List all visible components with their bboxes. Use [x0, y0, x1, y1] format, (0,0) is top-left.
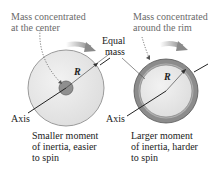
right-axis-end [194, 64, 208, 72]
right-caption-2: of inertia, harder [131, 141, 198, 152]
right-top-label-2: around the rim [133, 22, 192, 33]
left-radius-label: R [74, 66, 81, 77]
left-disk [28, 30, 110, 126]
right-radius-label: R [164, 71, 171, 82]
left-caption-3: to spin [32, 152, 59, 163]
right-caption-3: to spin [131, 152, 158, 163]
right-top-label-1: Mass concentrated [133, 11, 208, 22]
equal-mass-leader-right [122, 58, 145, 79]
equal-mass-label-1: Equal [102, 35, 125, 46]
left-top-label-2: at the center [11, 22, 60, 33]
right-axis-label: Axis [106, 113, 125, 124]
left-caption-1: Smaller moment [32, 130, 98, 141]
right-caption-1: Larger moment [131, 130, 193, 141]
left-top-label-1: Mass concentrated [11, 11, 86, 22]
left-axis-label: Axis [11, 113, 30, 124]
left-caption-2: of inertia, easier [32, 141, 97, 152]
left-axis-end [100, 58, 110, 65]
equal-mass-label-2: mass [105, 46, 125, 57]
